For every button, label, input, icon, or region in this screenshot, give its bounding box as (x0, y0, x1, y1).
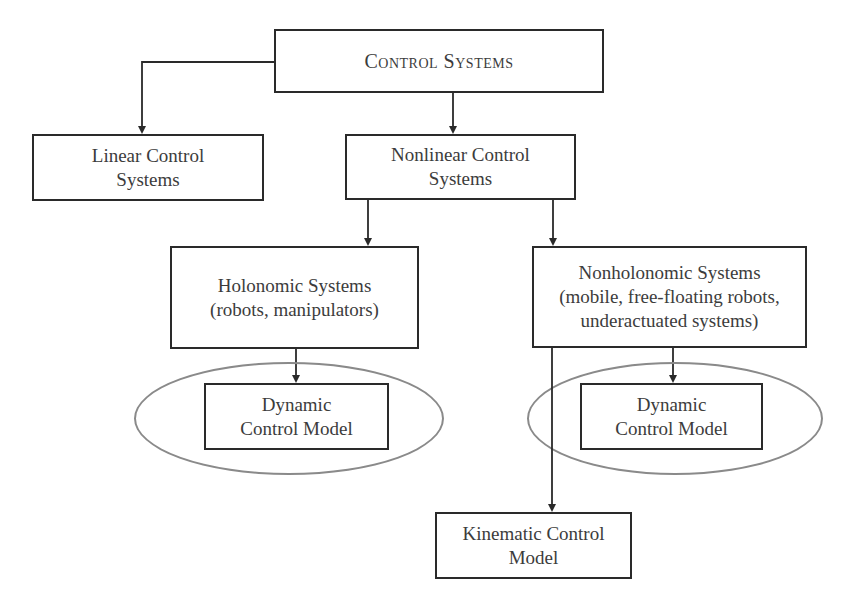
node-dynamic-control-model-right: Dynamic Control Model (580, 383, 763, 450)
node-holonomic-systems: Holonomic Systems (robots, manipulators) (170, 246, 419, 349)
node-label: Dynamic (637, 393, 707, 417)
node-dynamic-control-model-left: Dynamic Control Model (204, 383, 389, 450)
node-label: underactuated systems) (581, 309, 759, 333)
node-label: Systems (116, 168, 179, 192)
node-label: Kinematic Control (463, 522, 605, 546)
edge-nonholonomic-to-kinematic (548, 347, 556, 512)
node-control-systems: Control Systems (274, 29, 604, 93)
node-label: Model (509, 546, 559, 570)
node-nonholonomic-systems: Nonholonomic Systems (mobile, free-float… (532, 246, 807, 348)
node-label: Control Model (615, 417, 727, 441)
node-label: Systems (429, 167, 492, 191)
node-kinematic-control-model: Kinematic Control Model (435, 512, 632, 579)
node-label: Control Model (240, 417, 352, 441)
node-label: Holonomic Systems (218, 274, 372, 298)
node-nonlinear-control-systems: Nonlinear Control Systems (345, 134, 576, 200)
node-label: Control Systems (365, 49, 514, 73)
node-label: Linear Control (92, 144, 204, 168)
node-label: Nonholonomic Systems (578, 261, 760, 285)
node-label: (mobile, free-floating robots, (559, 285, 780, 309)
control-systems-diagram: Control Systems Linear Control Systems N… (0, 0, 846, 603)
node-label: (robots, manipulators) (210, 298, 379, 322)
node-linear-control-systems: Linear Control Systems (32, 134, 264, 201)
node-label: Nonlinear Control (391, 143, 530, 167)
node-label: Dynamic (262, 393, 332, 417)
